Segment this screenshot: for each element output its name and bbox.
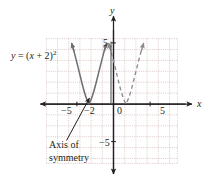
y-tick-label-neg5: −5 — [99, 138, 110, 148]
origin-label: 0 — [117, 106, 122, 116]
solid-parabola-curve — [73, 46, 106, 104]
x-axis-label: x — [197, 99, 201, 109]
axis-of-symmetry-annotation: Axis of symmetry — [49, 139, 89, 164]
coordinate-plane — [0, 0, 216, 185]
x-tick-label-neg2: −2 — [84, 106, 95, 116]
equation-equals: = — [15, 50, 26, 61]
equation-exponent: 2 — [53, 49, 57, 57]
equation-label: y = (x + 2)2 — [11, 50, 56, 61]
dashed-parabola-curve — [110, 46, 143, 104]
x-tick-label-neg5: −5 — [61, 106, 72, 116]
annotation-line-2: symmetry — [49, 152, 89, 165]
y-tick-label-pos5: 5 — [103, 38, 108, 48]
y-axis-label: y — [110, 6, 114, 16]
graph-figure: y = (x + 2)2 −5 −2 0 5 5 −5 x y Axis of … — [0, 0, 216, 185]
equation-plus: + — [34, 50, 45, 61]
x-tick-label-pos5: 5 — [160, 106, 165, 116]
annotation-line-1: Axis of — [49, 139, 89, 152]
